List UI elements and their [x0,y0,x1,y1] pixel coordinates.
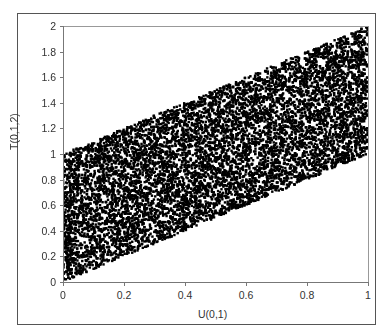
x-tick-mark [124,282,125,286]
y-tick-label: 1 [16,148,56,160]
y-tick-mark [60,256,64,257]
y-tick-label: 1.4 [16,97,56,109]
y-tick-mark [60,154,64,155]
y-tick-mark [60,128,64,129]
x-tick-mark [246,282,247,286]
y-tick-mark [60,205,64,206]
y-tick-label: 0.4 [16,225,56,237]
x-tick-label: 0.4 [165,289,205,301]
y-tick-mark [60,103,64,104]
y-tick-label: 0.6 [16,199,56,211]
x-tick-label: 1 [348,289,388,301]
x-tick-mark [185,282,186,286]
y-tick-mark [60,180,64,181]
y-tick-label: 0.8 [16,174,56,186]
x-axis-label: U(0,1) [198,308,227,320]
x-tick-mark [63,282,64,286]
x-tick-label: 0.2 [104,289,144,301]
y-tick-mark [60,26,64,27]
y-axis-label: T(0,1,2) [8,113,20,150]
x-tick-label: 0.6 [226,289,266,301]
x-tick-label: 0 [43,289,83,301]
y-tick-label: 0.2 [16,250,56,262]
y-tick-mark [60,77,64,78]
x-axis-line [63,282,368,283]
x-tick-mark [368,282,369,286]
y-tick-label: 0 [16,276,56,288]
x-tick-mark [307,282,308,286]
y-tick-label: 2 [16,20,56,32]
y-tick-label: 1.8 [16,46,56,58]
y-tick-label: 1.2 [16,122,56,134]
x-tick-label: 0.8 [287,289,327,301]
plot-border-top [63,26,368,27]
y-tick-label: 1.6 [16,71,56,83]
scatter-points [63,26,368,282]
plot-border-right [368,26,369,282]
y-tick-mark [60,52,64,53]
y-tick-mark [60,231,64,232]
